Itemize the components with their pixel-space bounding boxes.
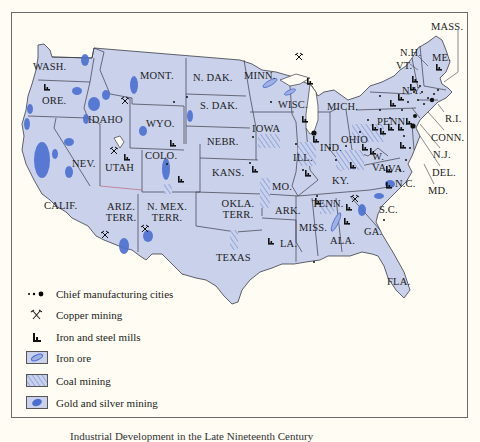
- state-label-mo: MO.: [272, 182, 292, 193]
- legend-item-cities: Chief manufacturing cities: [26, 288, 173, 300]
- state-label-nebr: NEBR.: [207, 137, 239, 148]
- state-label-wisc: WISC.: [278, 100, 308, 111]
- factory-icon: [26, 332, 48, 342]
- state-label-sc: S.C.: [379, 205, 398, 216]
- state-label-calif: CALIF.: [44, 201, 77, 212]
- state-label-n-mex-terr: N. MEX. TERR.: [145, 202, 189, 223]
- state-label-ill: ILL.: [293, 153, 313, 164]
- state-label-ny: N.Y.: [402, 86, 422, 97]
- legend-item-gold-silver: Gold and silver mining: [26, 396, 158, 409]
- state-label-ind: IND.: [320, 143, 342, 154]
- state-label-nj: N.J.: [433, 150, 451, 161]
- state-label-vt: VT.: [396, 61, 412, 72]
- state-label-ga: GA.: [364, 227, 382, 238]
- legend-item-coal: Coal mining: [26, 374, 111, 387]
- state-label-colo: COLO.: [145, 151, 177, 162]
- gold-silver-swatch: [26, 396, 48, 409]
- state-label-mich: MICH.: [327, 102, 358, 113]
- coal-hatch-swatch: [26, 374, 48, 387]
- state-label-iowa: IOWA: [252, 124, 280, 135]
- state-label-idaho: IDAHO: [88, 115, 123, 126]
- state-label-md: MD.: [428, 186, 448, 197]
- state-label-kans: KANS.: [212, 168, 244, 179]
- state-label-miss: MISS.: [299, 223, 327, 234]
- state-label-nc: N.C.: [395, 179, 416, 190]
- state-label-conn: CONN.: [431, 133, 464, 144]
- state-label-ariz-terr: ARIZ. TERR.: [103, 202, 139, 223]
- state-label-del: DEL.: [432, 168, 456, 179]
- state-label-ri: R.I.: [445, 114, 462, 125]
- state-label-minn: MINN.: [244, 71, 276, 82]
- legend-item-iron-steel: Iron and steel mills: [26, 331, 141, 343]
- state-label-me: ME.: [432, 53, 451, 64]
- state-label-n-dak: N. DAK.: [193, 73, 233, 84]
- state-label-ky: KY.: [332, 176, 349, 187]
- state-label-wash: WASH.: [33, 62, 66, 73]
- state-label-ohio: OHIO: [341, 135, 368, 146]
- state-label-va: VA.: [388, 164, 405, 175]
- state-label-ark: ARK.: [275, 206, 301, 217]
- state-label-nev: NEV.: [72, 159, 96, 170]
- state-label-mont: MONT.: [140, 71, 174, 82]
- crossed-pickaxes-icon: [26, 309, 48, 321]
- legend-item-iron-ore: Iron ore: [26, 351, 91, 364]
- state-label-penn: PENN.: [377, 117, 408, 128]
- state-label-tenn: TENN.: [312, 199, 344, 210]
- state-label-nh: N.H.: [400, 48, 421, 59]
- state-label-mass: MASS.: [431, 22, 463, 33]
- state-label-texas: TEXAS: [216, 253, 251, 264]
- iron-ore-swatch: [26, 351, 48, 364]
- state-label-utah: UTAH: [105, 163, 134, 174]
- state-label-s-dak: S. DAK.: [200, 101, 238, 112]
- state-label-ala: ALA.: [330, 236, 355, 247]
- map-caption: Industrial Development in the Late Ninet…: [70, 430, 313, 442]
- state-label-fla: FLA.: [387, 277, 410, 288]
- state-label-ore: ORE.: [42, 96, 66, 107]
- state-label-wyo: WYO.: [146, 119, 175, 130]
- legend-item-copper: Copper mining: [26, 309, 122, 321]
- state-label-okla-terr: OKLA. TERR.: [220, 199, 256, 220]
- city-dots-icon: [26, 290, 48, 298]
- state-label-la: LA.: [280, 239, 297, 250]
